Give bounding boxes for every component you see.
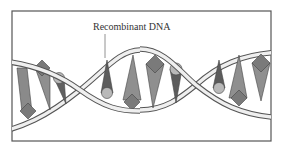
- recombinant-dna-label: Recombinant DNA: [93, 21, 171, 32]
- recombinant-dna-diagram: Recombinant DNA: [0, 0, 282, 158]
